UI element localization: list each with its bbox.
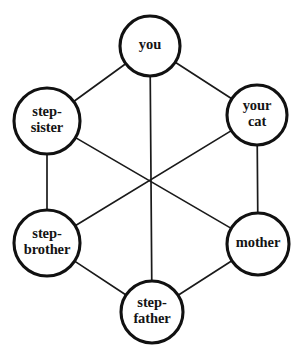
node-label-mother: mother bbox=[236, 234, 281, 250]
edge-your-cat--mother bbox=[257, 146, 258, 213]
node-label-step-sister: step-sister bbox=[31, 103, 64, 135]
edges-group bbox=[47, 63, 258, 295]
node-step-father[interactable]: step-father bbox=[121, 281, 183, 343]
relationship-graph: youyourcatmotherstep-fatherstep-brothers… bbox=[0, 0, 302, 360]
node-label-line: step- bbox=[32, 103, 62, 119]
node-label-line: you bbox=[139, 36, 161, 52]
node-your-cat[interactable]: yourcat bbox=[227, 85, 287, 145]
node-label-line: mother bbox=[236, 234, 281, 250]
node-label-line: step- bbox=[137, 294, 167, 310]
edge-your-cat--step-brother bbox=[76, 131, 231, 226]
node-step-brother[interactable]: step-brother bbox=[14, 210, 80, 276]
node-label-line: your bbox=[243, 97, 272, 113]
node-label-line: brother bbox=[24, 241, 71, 257]
edge-step-father--step-brother bbox=[75, 261, 126, 294]
diagram-canvas: youyourcatmotherstep-fatherstep-brothers… bbox=[0, 0, 302, 360]
node-label-line: step- bbox=[32, 225, 62, 241]
node-label-line: father bbox=[133, 310, 171, 326]
edge-step-sister--mother bbox=[76, 138, 231, 228]
node-you[interactable]: you bbox=[120, 16, 180, 76]
node-mother[interactable]: mother bbox=[227, 213, 289, 275]
node-label-line: cat bbox=[248, 113, 266, 129]
node-label-step-father: step-father bbox=[133, 294, 171, 326]
edge-mother--step-father bbox=[179, 261, 232, 295]
node-label-line: sister bbox=[31, 119, 64, 135]
node-label-you: you bbox=[139, 36, 161, 52]
node-step-sister[interactable]: step-sister bbox=[14, 88, 80, 154]
edge-step-sister--you bbox=[74, 64, 125, 101]
edge-you--your-cat bbox=[176, 63, 232, 99]
